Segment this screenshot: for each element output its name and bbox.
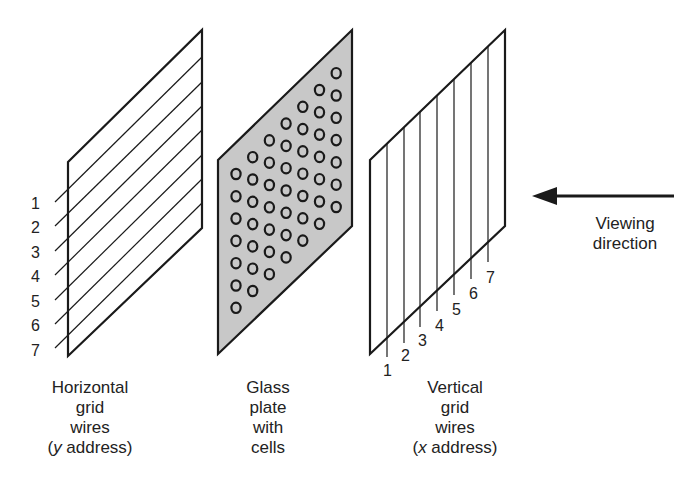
- wire-label: 4: [31, 269, 40, 285]
- address-variable: y: [53, 438, 62, 457]
- glass-plate-caption: Glass plate with cells: [218, 378, 318, 458]
- horizontal-wire-panel: [55, 30, 202, 356]
- horizontal-wires-caption: Horizontal grid wires (y address): [20, 378, 160, 458]
- caption-line: direction: [570, 234, 680, 254]
- wire-label: 7: [486, 270, 495, 286]
- caption-line: cells: [218, 438, 318, 458]
- wire-label: 3: [418, 333, 427, 349]
- caption-line: (x address): [385, 438, 525, 458]
- caption-line: Viewing: [570, 214, 680, 234]
- caption-line: wires: [385, 418, 525, 438]
- caption-line: with: [218, 418, 318, 438]
- wire-label: 2: [31, 220, 40, 236]
- address-variable: x: [418, 438, 427, 457]
- wire-label: 5: [31, 294, 40, 310]
- wire-label: 5: [452, 302, 461, 318]
- glass-plate-panel: [218, 30, 352, 354]
- wire-label: 4: [435, 318, 444, 334]
- caption-line: plate: [218, 398, 318, 418]
- viewing-direction-arrow-icon: [532, 187, 674, 205]
- wire-label: 7: [31, 343, 40, 359]
- wire-label: 3: [31, 245, 40, 261]
- vertical-wire-panel: [370, 30, 505, 357]
- viewing-direction-label: Viewing direction: [570, 214, 680, 254]
- vertical-wires-caption: Vertical grid wires (x address): [385, 378, 525, 458]
- caption-line: Horizontal: [20, 378, 160, 398]
- caption-line: wires: [20, 418, 160, 438]
- caption-line: Glass: [218, 378, 318, 398]
- wire-label: 2: [401, 348, 410, 364]
- caption-line: grid: [385, 398, 525, 418]
- wire-label: 1: [31, 196, 40, 212]
- caption-line: Vertical: [385, 378, 525, 398]
- wire-label: 1: [383, 363, 392, 379]
- caption-line: grid: [20, 398, 160, 418]
- caption-line: (y address): [20, 438, 160, 458]
- address-text: address): [427, 438, 498, 457]
- wire-label: 6: [31, 318, 40, 334]
- address-text: address): [62, 438, 133, 457]
- wire-label: 6: [469, 286, 478, 302]
